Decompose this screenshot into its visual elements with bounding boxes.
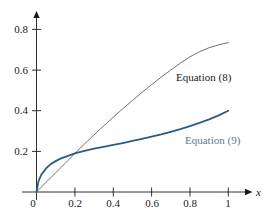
- y-axis-arrow-icon: [33, 11, 39, 18]
- x-tick-label-0.8: 0.8: [179, 197, 201, 209]
- curve-label-equation-9: Equation (9): [185, 134, 240, 146]
- y-tick-label-0.8: 0.8: [8, 23, 28, 35]
- x-axis-label: x: [256, 186, 261, 198]
- y-tick-label-0.6: 0.6: [8, 64, 28, 76]
- x-tick-label-1: 1: [221, 197, 235, 209]
- x-tick-label-0: 0: [26, 197, 40, 209]
- x-tick-label-0.6: 0.6: [141, 197, 163, 209]
- x-tick-label-0.4: 0.4: [102, 197, 124, 209]
- curve-label-equation-8: Equation (8): [176, 71, 231, 83]
- y-tick-label-0.2: 0.2: [8, 145, 28, 157]
- x-tick-label-0.2: 0.2: [64, 197, 86, 209]
- y-tick-label-0.4: 0.4: [8, 104, 28, 116]
- x-axis-arrow-icon: [245, 189, 253, 195]
- plot-canvas: [0, 0, 272, 220]
- curve-equation-9: [37, 111, 229, 192]
- curve-equation-8: [37, 43, 229, 192]
- figure-container: 0.8 0.6 0.4 0.2 0 0.2 0.4 0.6 0.8 1 x Eq…: [0, 0, 272, 220]
